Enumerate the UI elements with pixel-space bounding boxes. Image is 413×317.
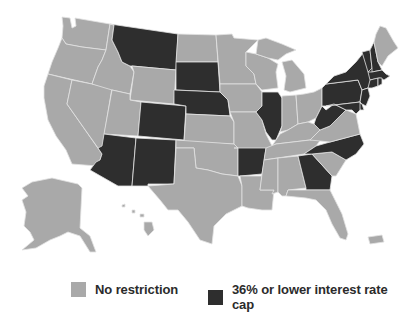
state-ak (22, 178, 96, 252)
legend-item-no-restriction: No restriction (71, 282, 178, 297)
territory-pr (368, 235, 384, 244)
legend-label-no-restriction: No restriction (95, 282, 178, 297)
state-nd (176, 34, 218, 62)
state-wy (130, 66, 176, 104)
state-ar (234, 148, 266, 176)
state-ks (184, 114, 234, 144)
state-nj (360, 88, 370, 106)
us-map (0, 0, 413, 270)
legend-label-rate-cap: 36% or lower interest rate cap (232, 282, 413, 312)
state-hi-3 (140, 214, 144, 217)
legend-swatch-rate-cap (208, 290, 223, 305)
state-me (374, 26, 398, 66)
legend: No restriction 36% or lower interest rat… (0, 282, 413, 306)
state-hi-1 (122, 204, 125, 207)
state-sd (176, 62, 220, 92)
state-hi-4 (144, 222, 154, 236)
state-nm (132, 138, 176, 186)
state-hi-2 (132, 210, 135, 213)
legend-swatch-no-restriction (71, 282, 86, 297)
state-co (138, 102, 186, 140)
state-mi (282, 60, 306, 92)
state-ri (378, 78, 382, 86)
legend-item-rate-cap: 36% or lower interest rate cap (208, 282, 413, 312)
state-fl (286, 190, 348, 240)
